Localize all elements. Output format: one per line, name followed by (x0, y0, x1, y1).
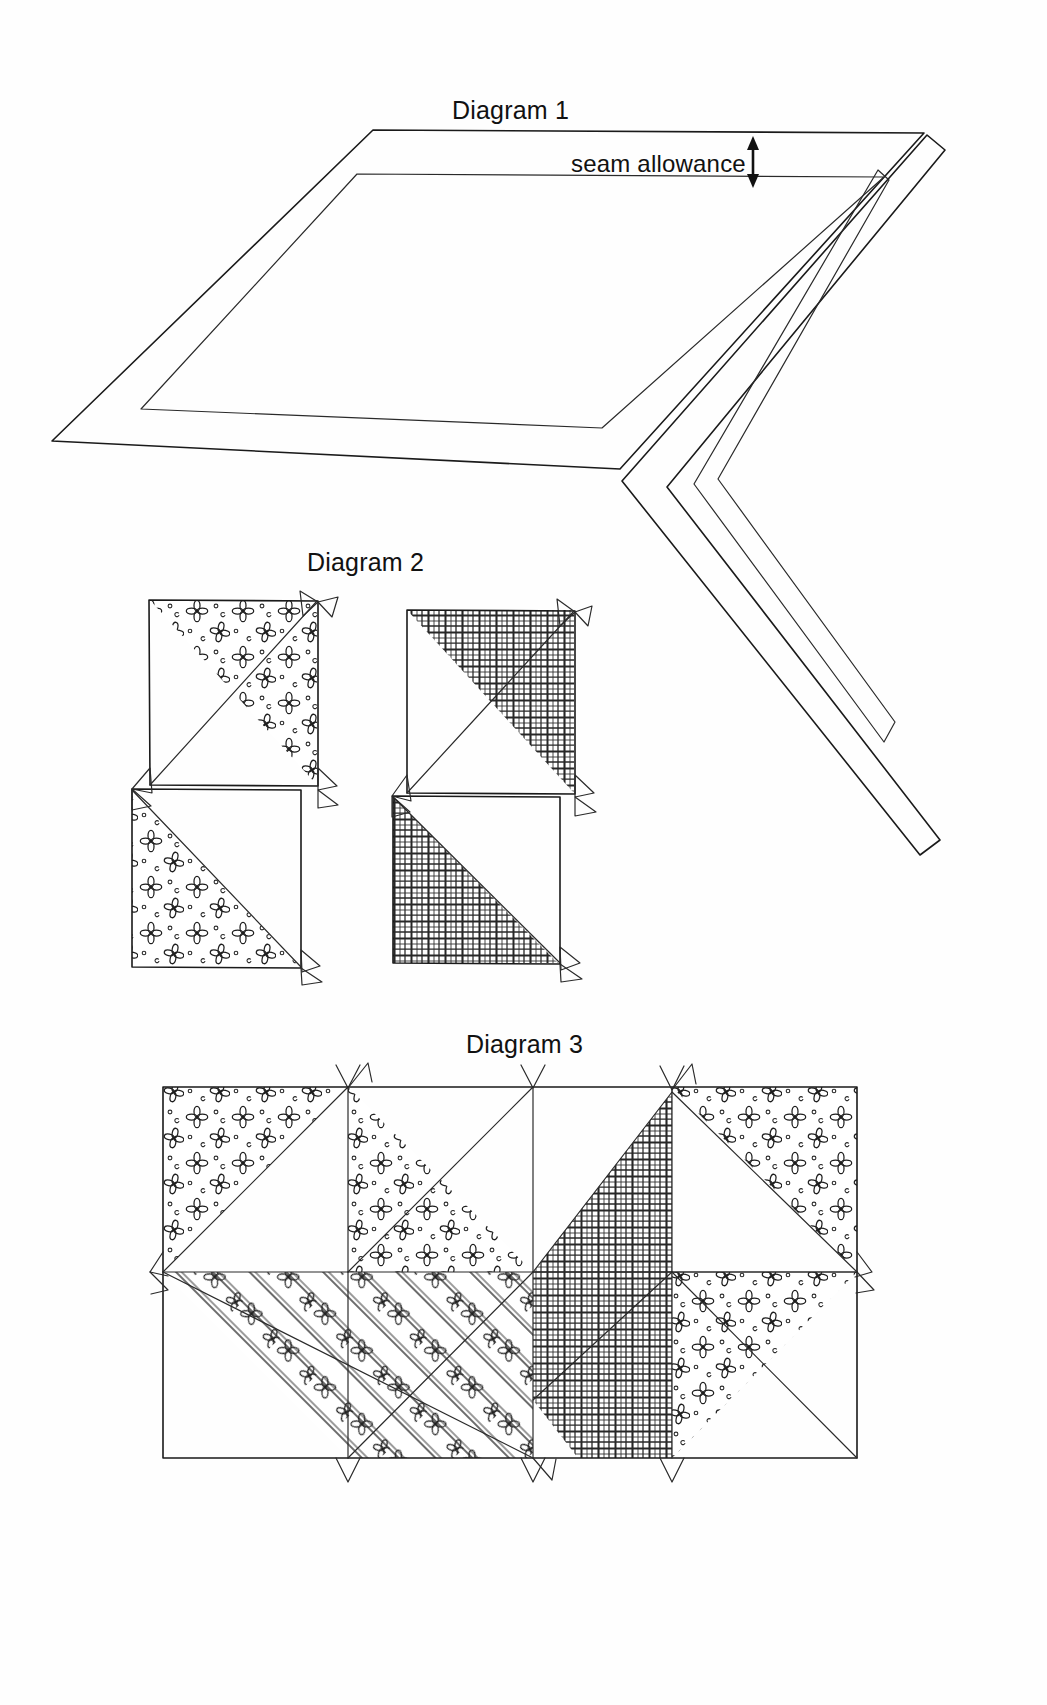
seam-allowance-arrow-icon (747, 136, 759, 188)
diagram-2-drawing (132, 591, 596, 985)
diagram-canvas (0, 0, 1047, 1705)
diagram-2-unit-right (392, 599, 596, 982)
patch-bottom-center-plaid (533, 1272, 672, 1458)
outer-chevron (622, 135, 945, 855)
inner-chevron (694, 170, 895, 742)
diagram-sheet: Diagram 1 seam allowance Diagram 2 Diagr… (0, 0, 1047, 1705)
diagram-3-drawing (150, 1063, 874, 1482)
outer-parallelogram (52, 130, 924, 469)
diagram-2-unit-left (132, 591, 338, 985)
